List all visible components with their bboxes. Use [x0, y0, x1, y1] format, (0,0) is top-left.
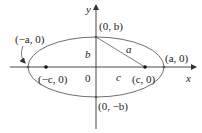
segment-b-label: b: [85, 48, 91, 60]
focus-right-point: [143, 65, 147, 69]
ellipse-diagram: y x (0, b) (−a, 0) (a, 0) a b 0 c (−c, 0…: [0, 0, 202, 133]
focus-right-label: (c, 0): [132, 73, 156, 86]
focus-left-point: [44, 65, 48, 69]
segment-a-label: a: [126, 43, 132, 55]
vertex-left-label: (−a, 0): [15, 33, 45, 46]
covertex-top-point: [95, 36, 98, 39]
segment-c-label: c: [116, 71, 121, 83]
x-axis-label: x: [185, 72, 191, 84]
origin-label: 0: [85, 72, 91, 84]
y-axis-label: y: [85, 3, 91, 15]
vertex-right-label: (a, 0): [165, 52, 189, 65]
vertex-left-leader: [21, 46, 25, 63]
covertex-bottom-label: (0, −b): [98, 100, 128, 113]
segment-a: [96, 37, 145, 67]
covertex-top-label: (0, b): [99, 20, 123, 33]
covertex-bottom-point: [95, 96, 98, 99]
vertex-left-point: [27, 66, 30, 69]
vertex-right-point: [163, 66, 166, 69]
focus-left-label: (−c, 0): [38, 73, 68, 86]
